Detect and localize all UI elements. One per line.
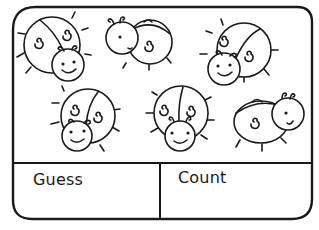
ladybird-icon [200, 19, 278, 85]
ladybird-icon [234, 93, 304, 151]
guess-answer-box[interactable] [15, 165, 158, 217]
ladybird-icon [106, 17, 172, 70]
count-answer-box[interactable] [162, 165, 310, 217]
ladybird-icon [146, 86, 214, 151]
ladybird-icon [51, 86, 120, 151]
ladybird-icon [17, 12, 91, 81]
